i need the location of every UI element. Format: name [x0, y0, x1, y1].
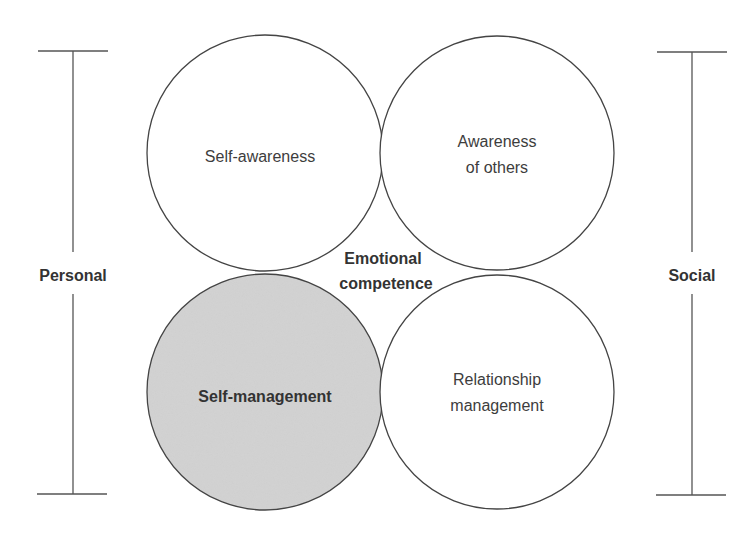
awareness-of-others-circle [380, 36, 614, 270]
social-label: Social [668, 267, 715, 284]
emotional-competence-label-line1: Emotional [344, 250, 421, 267]
emotional-competence-label-line2: competence [339, 275, 432, 292]
emotional-competence-diagram: Personal Social Self-awareness Awareness… [0, 0, 753, 534]
awareness-of-others-label-line2: of others [466, 159, 528, 176]
relationship-management-label-line2: management [450, 397, 544, 414]
relationship-management-label-line1: Relationship [453, 371, 541, 388]
self-awareness-label: Self-awareness [205, 148, 315, 165]
awareness-of-others-label-line1: Awareness [458, 133, 537, 150]
self-management-label: Self-management [198, 388, 332, 405]
relationship-management-circle [380, 275, 614, 509]
personal-label: Personal [39, 267, 107, 284]
